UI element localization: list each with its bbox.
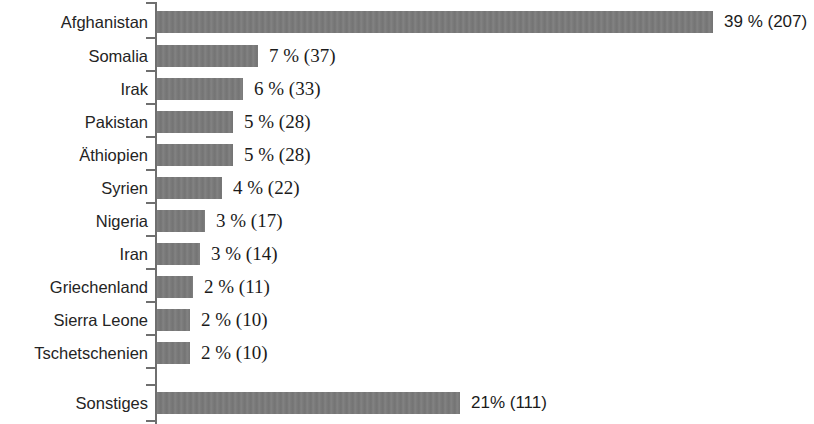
category-label: Griechenland	[0, 276, 148, 298]
bar-row: Sierra Leone2 % (10)	[0, 309, 814, 331]
axis-tick	[146, 384, 155, 386]
bar-value-label: 2 % (11)	[204, 276, 270, 298]
axis-tick	[146, 367, 155, 369]
category-label: Syrien	[0, 177, 148, 199]
category-label: Irak	[0, 78, 148, 100]
bar	[157, 11, 713, 33]
bar-value-label: 2 % (10)	[201, 342, 267, 364]
bar-row: Somalia7 % (37)	[0, 45, 814, 67]
bar	[157, 177, 222, 199]
axis-tick	[146, 235, 155, 237]
bar-row: Syrien4 % (22)	[0, 177, 814, 199]
axis-tick	[146, 2, 155, 4]
bar	[157, 78, 243, 100]
bar-row: Nigeria3 % (17)	[0, 210, 814, 232]
axis-tick	[146, 334, 155, 336]
bar	[157, 210, 205, 232]
bar	[157, 144, 233, 166]
bar-value-label: 3 % (14)	[211, 243, 277, 265]
bar-row: Sonstiges21% (111)	[0, 392, 814, 414]
bar-value-label: 21% (111)	[471, 392, 547, 414]
category-label: Sierra Leone	[0, 309, 148, 331]
axis-tick	[146, 420, 155, 422]
axis-tick	[146, 70, 155, 72]
category-label: Pakistan	[0, 111, 148, 133]
bar-value-label: 3 % (17)	[216, 210, 282, 232]
axis-tick	[146, 202, 155, 204]
bar-chart: Afghanistan39 % (207)Somalia7 % (37)Irak…	[0, 0, 814, 424]
category-label: Äthiopien	[0, 144, 148, 166]
category-label: Tschetschenien	[0, 342, 148, 364]
bar	[157, 342, 190, 364]
axis-tick	[146, 268, 155, 270]
bar	[157, 392, 460, 414]
bar-value-label: 39 % (207)	[724, 11, 807, 33]
category-label: Somalia	[0, 45, 148, 67]
bar-value-label: 7 % (37)	[269, 45, 335, 67]
bar	[157, 309, 190, 331]
bar-value-label: 5 % (28)	[244, 144, 310, 166]
bar-row: Äthiopien5 % (28)	[0, 144, 814, 166]
category-label: Iran	[0, 243, 148, 265]
bar	[157, 276, 193, 298]
axis-tick	[146, 301, 155, 303]
category-label: Sonstiges	[0, 392, 148, 414]
bar	[157, 111, 233, 133]
bar-row: Griechenland2 % (11)	[0, 276, 814, 298]
category-label: Nigeria	[0, 210, 148, 232]
bar-row: Iran3 % (14)	[0, 243, 814, 265]
axis-tick	[146, 169, 155, 171]
bar-value-label: 2 % (10)	[201, 309, 267, 331]
bar-row: Tschetschenien2 % (10)	[0, 342, 814, 364]
bar-row: Irak6 % (33)	[0, 78, 814, 100]
bar-row: Afghanistan39 % (207)	[0, 11, 814, 33]
axis-tick	[146, 136, 155, 138]
bar	[157, 243, 200, 265]
bar	[157, 45, 258, 67]
bar-row: Pakistan5 % (28)	[0, 111, 814, 133]
bar-value-label: 5 % (28)	[244, 111, 310, 133]
axis-tick	[146, 37, 155, 39]
axis-tick	[146, 103, 155, 105]
category-label: Afghanistan	[0, 11, 148, 33]
plot-area: Afghanistan39 % (207)Somalia7 % (37)Irak…	[0, 0, 814, 424]
bar-value-label: 6 % (33)	[254, 78, 320, 100]
bar-value-label: 4 % (22)	[233, 177, 299, 199]
